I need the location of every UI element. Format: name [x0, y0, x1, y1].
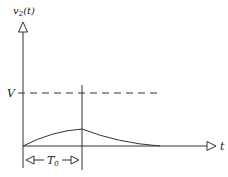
- x-axis-arrow-icon: [207, 142, 216, 151]
- y-axis-arrow-icon: [19, 22, 28, 32]
- t0-left-arrow-icon: [26, 156, 34, 164]
- t0-right-arrow-icon: [71, 156, 79, 164]
- v2-curve: [23, 129, 160, 146]
- x-axis-label: t: [220, 140, 225, 153]
- y-axis-label: v2(t): [13, 5, 35, 18]
- v-level-label: V: [7, 87, 16, 100]
- t0-label: T0: [47, 154, 59, 168]
- waveform-diagram: v2(t) V t T0: [0, 0, 228, 177]
